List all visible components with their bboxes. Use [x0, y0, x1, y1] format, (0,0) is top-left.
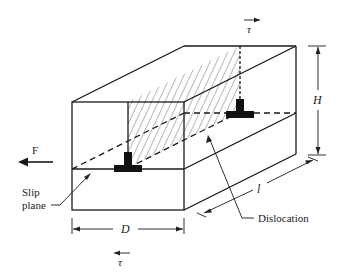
slip-plane-label-2: plane — [22, 199, 46, 211]
depth-dimension: D — [72, 218, 184, 236]
dislocation-callout: Dislocation — [206, 135, 309, 224]
tau-bottom-label: τ — [118, 256, 123, 268]
length-dimension: l — [197, 157, 318, 217]
height-dimension: H — [308, 46, 326, 155]
crystal-block — [72, 46, 296, 210]
slip-plane-callout: Slip plane — [22, 173, 91, 211]
shear-stress-top: τ — [244, 18, 260, 36]
tau-top-label: τ — [247, 23, 252, 35]
height-label: H — [312, 93, 323, 107]
dislocation-diagram: τ τ F Slip plane Dislocation H — [0, 0, 340, 273]
shear-stress-bottom: τ — [114, 251, 130, 269]
dislocation-label: Dislocation — [258, 212, 309, 224]
length-label: l — [257, 182, 261, 196]
slip-plane-label-1: Slip — [22, 186, 40, 198]
force-arrow: F — [18, 144, 53, 167]
force-label: F — [32, 144, 38, 156]
depth-label: D — [120, 222, 130, 236]
